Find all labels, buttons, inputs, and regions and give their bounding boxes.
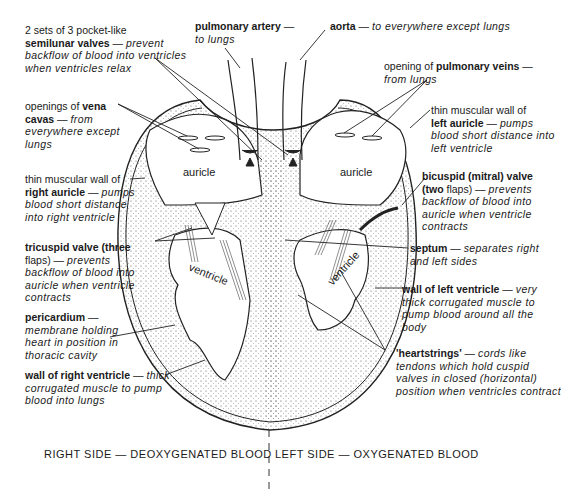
- left-auricle-chamber: [300, 111, 406, 205]
- semilunar-valves-label: 2 sets of 3 pocket-like semilunar valves…: [25, 24, 205, 74]
- left-auricle-wall-label: thin muscular wall of left auricle — pum…: [431, 104, 561, 154]
- bicuspid-valve-label: bicuspid (mitral) valve (two flaps) — pr…: [422, 170, 557, 233]
- pericardium-label: pericardium — membrane holding heart in …: [25, 311, 145, 361]
- left-auricle-label: auricle: [340, 166, 372, 179]
- tricuspid-valve-label: tricuspid valve (three flaps) — prevents…: [25, 241, 150, 304]
- right-side-caption: RIGHT SIDE — DEOXYGENATED BLOOD: [44, 448, 272, 460]
- aorta-label: aorta — to everywhere except lungs: [330, 20, 560, 33]
- left-side-caption: LEFT SIDE — OXYGENATED BLOOD: [275, 448, 479, 460]
- left-ventricle-wall-label: wall of left ventricle — very thick corr…: [402, 283, 557, 333]
- right-auricle-wall-label: thin muscular wall of right auricle — pu…: [25, 173, 135, 223]
- pulmonary-artery-label: pulmonary artery — to lungs: [195, 20, 305, 45]
- heartstrings-label: 'heartstrings' — cords like tendons whic…: [396, 347, 561, 397]
- right-ventricle-wall-label: wall of right ventricle — thick corrugat…: [25, 369, 175, 407]
- right-auricle-label: auricle: [183, 166, 215, 179]
- vena-cavas-label: openings of vena cavas — from everywhere…: [25, 100, 125, 150]
- pulmonary-veins-label: opening of pulmonary veins — from lungs: [384, 60, 559, 85]
- septum-label: septum — separates right and left sides: [410, 242, 560, 267]
